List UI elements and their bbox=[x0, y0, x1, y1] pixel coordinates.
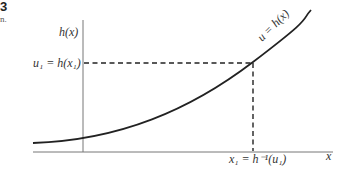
x1-label: x₁ = h⁻¹(u₁) bbox=[228, 152, 286, 166]
y-axis-label: h(x) bbox=[59, 25, 78, 39]
x-axis-label: x bbox=[325, 149, 332, 163]
u1-label: u₁ = h(x₁) bbox=[33, 56, 81, 70]
inverse-function-diagram: h(x) u₁ = h(x₁) x₁ = h⁻¹(u₁) x u = h(x) bbox=[0, 0, 338, 169]
curve-label: u = h(x) bbox=[254, 6, 292, 44]
